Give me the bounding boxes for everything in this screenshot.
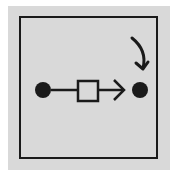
curved-arrowhead-icon [136,62,148,69]
target-node-icon [132,82,148,98]
process-box-icon [78,81,98,101]
transition-diagram [0,0,178,177]
source-node-icon [35,82,51,98]
